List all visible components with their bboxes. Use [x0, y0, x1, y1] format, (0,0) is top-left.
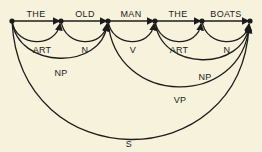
node-5: [247, 18, 252, 23]
word-label-old: OLD: [75, 9, 95, 19]
arc-label-v: V: [130, 45, 136, 55]
arc-v: [108, 21, 154, 42]
arc-label-s: S: [126, 139, 132, 149]
arc-n-1: [61, 21, 107, 42]
arc-label-np-1: NP: [54, 68, 67, 78]
word-label-man: MAN: [121, 9, 142, 19]
word-label-the-2: THE: [169, 9, 188, 19]
word-label-the-1: THE: [27, 9, 46, 19]
arc-labels: ART N NP V ART N NP VP S: [33, 45, 231, 149]
arc-label-art-2: ART: [170, 45, 189, 55]
arc-label-np-2: NP: [198, 72, 211, 82]
node-2: [105, 18, 110, 23]
node-0: [9, 18, 14, 23]
arc-label-vp: VP: [174, 95, 187, 105]
arc-n-2: [202, 21, 249, 42]
arc-art-2: [155, 21, 201, 42]
node-4: [199, 18, 204, 23]
node-3: [152, 18, 157, 23]
word-labels: THE OLD MAN THE BOATS: [27, 9, 242, 19]
arc-label-n-2: N: [224, 45, 231, 55]
arc-label-n-1: N: [82, 45, 89, 55]
node-1: [58, 18, 63, 23]
word-label-boats: BOATS: [210, 9, 241, 19]
category-arcs: [12, 21, 249, 140]
arc-label-art-1: ART: [33, 45, 52, 55]
parse-network-diagram: THE OLD MAN THE BOATS ART N NP V ART N N…: [0, 0, 262, 152]
